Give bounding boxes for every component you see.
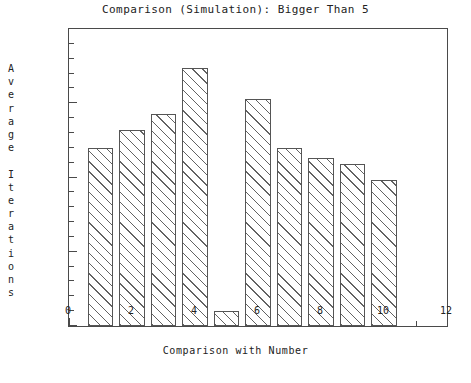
y-axis-label-char: e [3,194,19,207]
y-axis-label-char: r [3,102,19,115]
y-tick-minor [69,221,74,222]
bar [245,99,270,326]
x-tick-minor [416,321,417,326]
bar [88,148,113,326]
plot-area: 05101520 [68,28,448,327]
y-axis-label-char: r [3,207,19,220]
y-axis-label-char: t [3,233,19,246]
y-axis-label-char: . [3,154,19,167]
y-tick-minor [69,73,74,74]
y-tick-minor [69,162,74,163]
y-tick-major [69,102,77,103]
y-axis-label: Average.Iterations [3,62,19,299]
y-tick-minor [69,191,74,192]
y-tick-minor [69,206,74,207]
y-axis-label-char: t [3,181,19,194]
x-tick-major [447,318,448,326]
y-axis-label-char: I [3,168,19,181]
y-axis-label-char: n [3,273,19,286]
y-axis-label-char: g [3,128,19,141]
y-axis-label-char: o [3,260,19,273]
chart-title: Comparison (Simulation): Bigger Than 5 [0,3,471,16]
y-tick-minor [69,280,74,281]
y-tick-major [69,251,77,252]
y-tick-minor [69,266,74,267]
x-tick-label: 4 [174,305,214,316]
chart-figure: Comparison (Simulation): Bigger Than 5 A… [0,0,471,383]
y-axis-label-char: s [3,286,19,299]
bar [182,68,207,326]
y-tick-minor [69,43,74,44]
y-tick-minor [69,117,74,118]
y-axis-label-char: a [3,115,19,128]
x-tick-label: 12 [426,305,466,316]
y-tick-minor [69,58,74,59]
y-tick-major [69,325,77,326]
y-axis-label-char: v [3,75,19,88]
y-tick-minor [69,132,74,133]
x-tick-label: 0 [48,305,88,316]
bar [214,311,239,326]
y-tick-minor [69,236,74,237]
y-tick-minor [69,147,74,148]
bar [277,148,302,326]
y-axis-label-char: e [3,88,19,101]
y-axis-label-char: e [3,141,19,154]
y-axis-label-char: a [3,220,19,233]
y-axis-label-char: i [3,247,19,260]
x-tick-label: 6 [237,305,277,316]
bar [119,130,144,326]
y-axis-label-char: A [3,62,19,75]
x-tick-label: 2 [111,305,151,316]
bar [340,164,365,326]
y-tick-major [69,177,77,178]
y-tick-major [69,28,77,29]
x-tick-label: 10 [363,305,403,316]
y-tick-minor [69,87,74,88]
x-axis-label: Comparison with Number [0,345,471,356]
bar [151,114,176,326]
x-tick-label: 8 [300,305,340,316]
y-tick-minor [69,295,74,296]
bar [308,158,333,326]
x-tick-major [69,318,70,326]
